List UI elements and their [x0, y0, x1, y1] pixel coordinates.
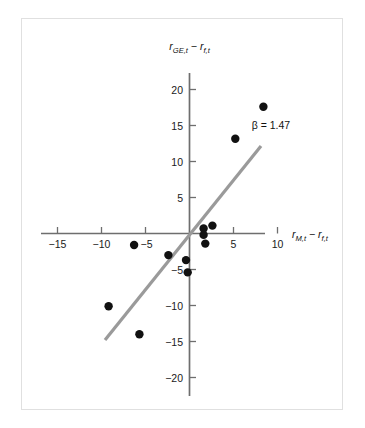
- regression-line: [105, 146, 261, 340]
- data-point: [135, 330, 143, 338]
- x-tick-label-neg15: −15: [49, 238, 67, 250]
- data-point: [130, 241, 138, 249]
- x-tick-label-10: 10: [272, 238, 284, 250]
- x-axis-title-sub2: f,t: [322, 234, 329, 243]
- data-point: [182, 256, 190, 264]
- scatter-chart: −15 −10 −5 5 10 20 15 10 5 −5 −10 −15 −2…: [0, 0, 365, 428]
- y-tick-label-neg5: −5: [171, 264, 183, 276]
- data-point: [164, 251, 172, 259]
- data-point: [259, 103, 267, 111]
- x-axis-ticks: [58, 227, 278, 234]
- y-tick-label-20: 20: [171, 84, 183, 96]
- x-tick-label-neg10: −10: [93, 238, 111, 250]
- y-axis-title-minus: −: [188, 40, 200, 52]
- y-tick-label-neg10: −10: [165, 300, 183, 312]
- x-tick-label-neg5: −5: [141, 238, 153, 250]
- data-point: [104, 302, 112, 310]
- y-tick-label-10: 10: [171, 156, 183, 168]
- x-tick-label-5: 5: [231, 238, 237, 250]
- data-point: [208, 221, 216, 229]
- y-tick-label-5: 5: [177, 192, 183, 204]
- beta-annotation: β = 1.47: [252, 119, 291, 131]
- x-axis-title: rM,t − rf,t: [292, 228, 329, 243]
- y-tick-label-15: 15: [171, 120, 183, 132]
- y-tick-label-neg15: −15: [165, 336, 183, 348]
- y-tick-label-neg20: −20: [165, 372, 183, 384]
- y-axis-title-sub2: f,t: [203, 46, 210, 55]
- x-axis-title-minus: −: [306, 228, 318, 240]
- x-tick-labels: −15 −10 −5 5 10: [49, 238, 284, 250]
- y-axis-title-sub1: GE,t: [173, 46, 189, 55]
- data-point: [184, 268, 192, 276]
- data-points: [104, 103, 267, 339]
- y-axis-title: rGE,t − rf,t: [169, 40, 210, 55]
- data-point: [201, 239, 209, 247]
- data-point: [199, 231, 207, 239]
- data-point: [231, 135, 239, 143]
